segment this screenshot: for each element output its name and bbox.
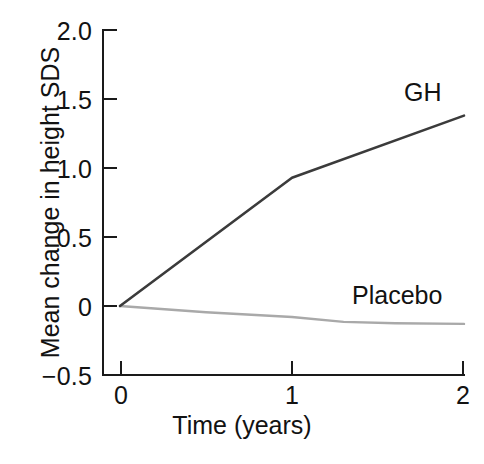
x-tick-label-1: 1 — [272, 383, 312, 408]
chart-figure: 2.0 1.5 1.0 0.5 0 −0.5 0 1 2 Time (years… — [0, 0, 484, 464]
series-line-gh — [120, 116, 464, 306]
x-axis-title: Time (years) — [0, 413, 484, 438]
series-label-gh: GH — [404, 80, 442, 105]
x-tick-label-0: 0 — [101, 383, 141, 408]
x-tick-label-2: 2 — [443, 383, 483, 408]
y-axis-title: Mean change in height SDS — [38, 23, 63, 383]
series-label-placebo: Placebo — [352, 283, 442, 308]
